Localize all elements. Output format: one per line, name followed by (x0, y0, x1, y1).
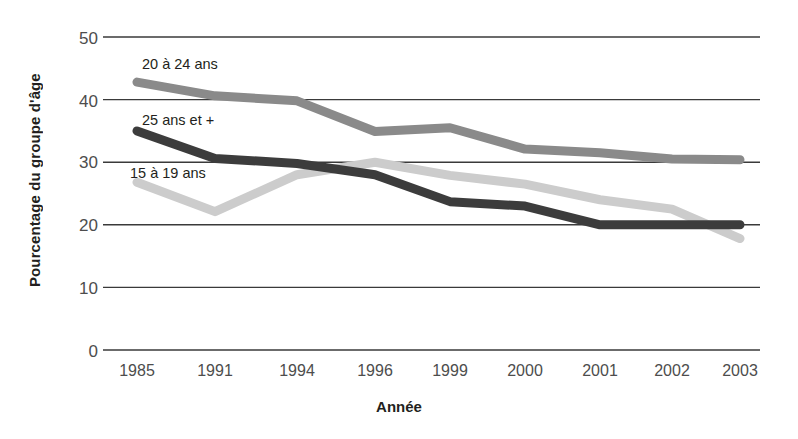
line-chart: Pourcentage du groupe d'âge 50 40 30 20 … (0, 0, 798, 439)
series-label-15-19: 15 à 19 ans (130, 166, 206, 181)
x-tick-label-2002: 2002 (637, 363, 707, 379)
x-tick-label-2003: 2003 (705, 363, 775, 379)
x-tick-label-2001: 2001 (565, 363, 635, 379)
x-tick-label-1996: 1996 (340, 363, 410, 379)
series-label-20-24: 20 à 24 ans (142, 57, 218, 72)
x-tick-label-1985: 1985 (102, 363, 172, 379)
x-axis-title: Année (0, 398, 798, 415)
x-tick-label-1991: 1991 (180, 363, 250, 379)
series-lines (137, 82, 740, 239)
series-line-20-à-24-ans (137, 82, 740, 160)
x-tick-label-1999: 1999 (415, 363, 485, 379)
series-label-25-plus: 25 ans et + (142, 113, 214, 128)
x-tick-label-2000: 2000 (490, 363, 560, 379)
x-tick-label-1994: 1994 (262, 363, 332, 379)
